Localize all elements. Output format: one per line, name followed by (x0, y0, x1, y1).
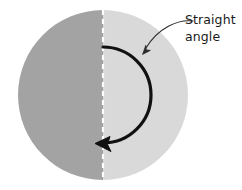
straight-angle-label-line1: Straight (185, 12, 236, 27)
straight-angle-figure: Straight angle (0, 0, 242, 190)
straight-angle-label-line2: angle (185, 29, 220, 44)
figure-container: Straight angle (0, 0, 242, 190)
